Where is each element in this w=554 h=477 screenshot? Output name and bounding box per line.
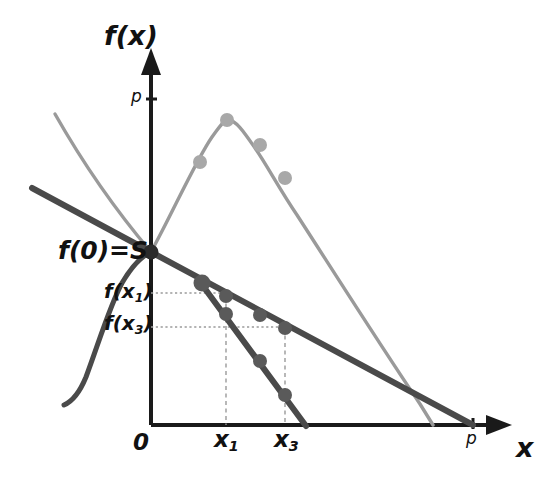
- marker-steep-line-x3: [278, 388, 292, 402]
- fx1-label-main: f(x: [104, 279, 135, 303]
- fx3-label-close: ): [143, 311, 152, 335]
- marker-light-curve-1: [193, 155, 207, 169]
- marker-shallow-line-1: [194, 275, 211, 292]
- x1-label-subscript: 1: [229, 438, 239, 454]
- marker-light-curve-3: [253, 138, 267, 152]
- marker-steep-line-x1: [219, 307, 233, 321]
- fx3-label: f(x3): [104, 313, 153, 336]
- fx3-label-main: f(x: [104, 311, 135, 335]
- y-tick-label-p: p: [131, 88, 142, 105]
- origin-label: 0: [133, 431, 149, 454]
- figure-container: f(x) x 0 p p f(0)=S f(x1) f(x3) x1 x3: [0, 0, 554, 477]
- x-axis-label: x: [516, 434, 533, 461]
- marker-steep-line-2: [253, 354, 267, 368]
- x3-tick-label: x3: [274, 428, 299, 454]
- light-curve-markers: [193, 113, 292, 185]
- x-axis-arrowhead: [486, 415, 512, 435]
- x-tick-label-p: p: [466, 430, 477, 447]
- x3-label-subscript: 3: [289, 438, 299, 454]
- x1-label-main: x: [214, 426, 229, 452]
- y-axis-label: f(x): [104, 22, 158, 49]
- marker-shallow-line-x1: [219, 289, 233, 303]
- intercept-label: f(0)=S: [58, 238, 148, 263]
- x3-label-main: x: [274, 426, 289, 452]
- marker-light-curve-peak: [220, 113, 234, 127]
- y-axis-arrowhead: [141, 48, 161, 75]
- marker-shallow-line-3: [253, 308, 267, 322]
- fx1-label: f(x1): [104, 281, 153, 304]
- light-curve-left-branch: [55, 114, 151, 252]
- marker-light-curve-4: [278, 171, 292, 185]
- axes-group: [141, 48, 512, 435]
- marker-shallow-line-x3: [278, 321, 292, 335]
- x1-tick-label: x1: [214, 428, 239, 454]
- fx1-label-close: ): [143, 279, 152, 303]
